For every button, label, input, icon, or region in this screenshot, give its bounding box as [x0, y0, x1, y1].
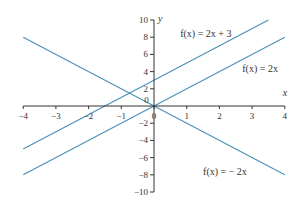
x-axis-label: x: [282, 87, 288, 98]
y-tick-label: 10: [139, 15, 149, 25]
x-tick-label: 1: [184, 111, 189, 121]
y-tick-label: −2: [138, 118, 148, 128]
x-tick-label: −1: [117, 111, 127, 121]
x-tick-label: −3: [51, 111, 61, 121]
x-tick-label: 2: [217, 111, 222, 121]
x-tick-label: −2: [84, 111, 94, 121]
y-tick-label: 8: [144, 32, 149, 42]
y-tick-label: −4: [138, 135, 148, 145]
x-tick-label: 4: [283, 111, 288, 121]
annotation: 0: [144, 95, 149, 105]
y-tick-label: 2: [144, 84, 149, 94]
annotation: f(x) = − 2x: [203, 166, 247, 178]
annotation: f(x) = 2x + 3: [180, 28, 231, 40]
y-tick-label: 4: [144, 67, 149, 77]
y-tick-label: 6: [144, 49, 149, 59]
x-tick-label: 3: [250, 111, 255, 121]
y-tick-label: −8: [138, 170, 148, 180]
line-chart: −4−3−2−101234−10−8−6−4−2246810yx f(x) = …: [0, 0, 305, 204]
annotation: f(x) = 2x: [242, 63, 278, 75]
x-tick-label: −4: [18, 111, 28, 121]
y-tick-label: −10: [134, 187, 149, 197]
y-tick-label: −6: [138, 153, 148, 163]
y-axis-label: y: [157, 13, 163, 24]
